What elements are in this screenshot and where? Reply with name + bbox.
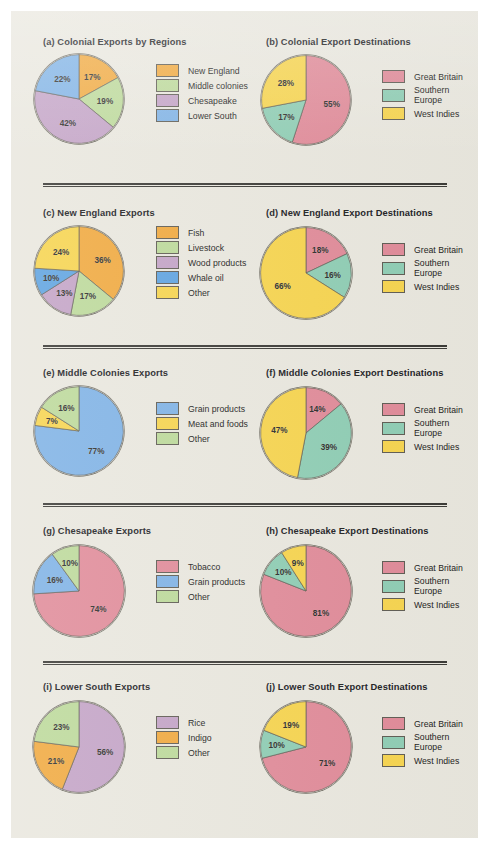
legend-item: Other [156,286,246,299]
legend-label: Livestock [188,243,224,253]
chart-body-d: 18%16%66%Great BritainSouthern EuropeWes… [254,223,478,335]
section-divider [43,345,447,349]
pie-chart-c: 36%17%13%10%24% [34,226,124,316]
chart-row: (g) Chesapeake Exports74%16%10%TobaccoGr… [11,525,478,675]
chart-title-g: (g) Chesapeake Exports [29,525,254,537]
legend-item: Other [156,746,212,759]
legend-swatch [382,440,405,453]
legend-item: Southern Europe [382,576,463,596]
legend-swatch [382,280,405,293]
legend-label: Whale oil [188,273,224,283]
pie-chart-d: 18%16%66% [260,227,352,319]
legend-swatch [156,590,179,603]
section-divider [43,183,447,187]
chart-panel-a: (a) Colonial Exports by Regions17%19%42%… [29,36,254,164]
legend-label: Wood products [188,258,246,268]
legend-swatch [382,243,405,256]
legend-item: Great Britain [382,70,463,83]
legend-label: Southern Europe [414,732,449,752]
legend-swatch [382,403,405,416]
legend-label: Great Britain [414,72,463,82]
legend-swatch [156,560,179,573]
legend-swatch [156,575,179,588]
legend-label: West Indies [414,109,459,119]
legend-label: Meat and foods [188,419,248,429]
legend-swatch [156,226,179,239]
pie-chart-g: 74%16%10% [33,545,125,637]
chart-panel-f: (f) Middle Colonies Export Destinations1… [254,367,478,495]
pie-slice [34,702,79,747]
chart-title-b: (b) Colonial Export Destinations [254,36,478,48]
chart-row: (a) Colonial Exports by Regions17%19%42%… [11,36,478,186]
legend-item: Great Britain [382,561,463,574]
legend-item: Southern Europe [382,732,463,752]
legend-swatch [156,402,179,415]
chart-panel-b: (b) Colonial Export Destinations55%17%28… [254,36,478,164]
chart-body-i: 56%21%23%RiceIndigoOther [29,697,254,809]
legend-item: Indigo [156,731,212,744]
legend-swatch [382,262,405,275]
legend-swatch [156,417,179,430]
legend-item: West Indies [382,440,463,453]
pie-chart-b: 55%17%28% [261,55,351,145]
legend-item: Wood products [156,256,246,269]
legend-item: Grain products [156,575,245,588]
pie-slice [35,227,79,271]
legend-a: New EnglandMiddle coloniesChesapeakeLowe… [156,64,248,124]
legend-swatch [382,580,405,593]
legend-swatch [156,64,179,77]
legend-label: Tobacco [188,562,220,572]
chart-panel-c: (c) New England Exports36%17%13%10%24%Fi… [29,207,254,335]
legend-swatch [156,79,179,92]
legend-label: West Indies [414,282,459,292]
legend-swatch [382,754,405,767]
legend-item: Meat and foods [156,417,248,430]
chart-panel-h: (h) Chesapeake Export Destinations81%10%… [254,525,478,653]
chart-body-c: 36%17%13%10%24%FishLivestockWood product… [29,223,254,335]
legend-item: Tobacco [156,560,245,573]
pie-body [260,545,352,637]
pie-slice [262,56,306,109]
legend-swatch [156,271,179,284]
pie-body [33,701,125,793]
legend-label: West Indies [414,600,459,610]
legend-label: Southern Europe [414,418,449,438]
legend-item: Southern Europe [382,85,463,105]
legend-swatch [156,241,179,254]
legend-swatch [382,70,405,83]
chart-panel-g: (g) Chesapeake Exports74%16%10%TobaccoGr… [29,525,254,653]
legend-item: Fish [156,226,246,239]
chart-panel-e: (e) Middle Colonies Exports77%7%16%Grain… [29,367,254,495]
legend-label: Other [188,434,210,444]
legend-label: Southern Europe [414,258,449,278]
legend-item: Southern Europe [382,418,463,438]
legend-item: New England [156,64,248,77]
legend-swatch [382,107,405,120]
legend-item: Other [156,590,245,603]
legend-label: West Indies [414,756,459,766]
pie-body [34,54,124,144]
legend-item: West Indies [382,754,463,767]
legend-item: Lower South [156,109,248,122]
chart-body-b: 55%17%28%Great BritainSouthern EuropeWes… [254,52,478,164]
chart-row: (i) Lower South Exports56%21%23%RiceIndi… [11,681,478,831]
pie-body [34,386,124,476]
legend-item: Livestock [156,241,246,254]
pie-chart-f: 14%39%47% [260,387,352,479]
pie-body [260,387,352,479]
chart-body-h: 81%10%9%Great BritainSouthern EuropeWest… [254,541,478,653]
legend-item: Southern Europe [382,258,463,278]
legend-swatch [382,717,405,730]
legend-label: Great Britain [414,405,463,415]
legend-i: RiceIndigoOther [156,716,212,761]
pie-body [261,55,351,145]
legend-item: Whale oil [156,271,246,284]
legend-label: Fish [188,228,204,238]
legend-item: West Indies [382,107,463,120]
legend-swatch [156,716,179,729]
legend-label: Grain products [188,404,245,414]
chart-row: (c) New England Exports36%17%13%10%24%Fi… [11,207,478,357]
chart-row: (e) Middle Colonies Exports77%7%16%Grain… [11,367,478,517]
legend-label: Great Britain [414,245,463,255]
pie-chart-i: 56%21%23% [33,701,125,793]
